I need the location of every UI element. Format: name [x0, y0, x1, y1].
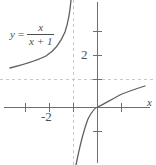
curve-right-branch — [76, 86, 145, 165]
function-graph-figure: -2 2 x y = x x + 1 — [0, 0, 156, 165]
x-tick-label-neg2: -2 — [41, 110, 52, 123]
equation-label: y = x x + 1 — [10, 22, 54, 47]
equation-denominator: x + 1 — [27, 35, 54, 47]
equation-lhs: y — [10, 29, 15, 40]
equation-equals-sign: = — [18, 29, 24, 40]
x-axis-label: x — [147, 97, 152, 108]
y-tick-label-2: 2 — [81, 48, 88, 61]
equation-numerator: x — [35, 22, 46, 34]
equation-fraction: x x + 1 — [27, 22, 54, 47]
